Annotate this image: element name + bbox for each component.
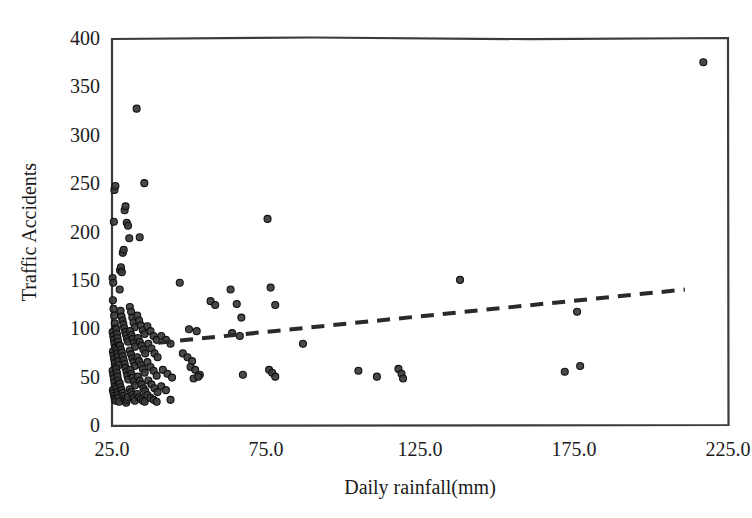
x-tick-label: 25.0 bbox=[95, 438, 130, 460]
data-point bbox=[141, 369, 148, 376]
data-point bbox=[227, 286, 234, 293]
y-tick-label: 0 bbox=[90, 414, 100, 436]
data-point bbox=[153, 398, 160, 405]
data-point bbox=[236, 332, 243, 339]
y-tick-label: 250 bbox=[70, 172, 100, 194]
data-point bbox=[122, 203, 129, 210]
data-point bbox=[111, 312, 118, 319]
data-point bbox=[457, 276, 464, 283]
data-point bbox=[126, 235, 133, 242]
x-tick-label: 125.0 bbox=[398, 438, 443, 460]
y-tick-label: 400 bbox=[70, 27, 100, 49]
data-point bbox=[400, 375, 407, 382]
data-point bbox=[110, 218, 117, 225]
data-point bbox=[162, 387, 169, 394]
data-point bbox=[154, 354, 161, 361]
x-tick-label: 225.0 bbox=[706, 438, 751, 460]
data-point bbox=[118, 269, 125, 276]
data-point bbox=[264, 215, 271, 222]
y-axis-title: Traffic Accidents bbox=[18, 163, 40, 302]
data-point bbox=[109, 297, 116, 304]
x-tick-label: 175.0 bbox=[552, 438, 597, 460]
scatter-chart-figure: 050100150200250300350400 25.075.0125.017… bbox=[0, 0, 752, 518]
data-point bbox=[355, 367, 362, 374]
data-point bbox=[577, 362, 584, 369]
data-point bbox=[233, 301, 240, 308]
data-point bbox=[700, 59, 707, 66]
data-point bbox=[299, 340, 306, 347]
data-point bbox=[238, 314, 245, 321]
data-point bbox=[116, 286, 123, 293]
data-point bbox=[195, 373, 202, 380]
data-point bbox=[125, 222, 132, 229]
data-point bbox=[136, 234, 143, 241]
y-tick-label: 300 bbox=[70, 124, 100, 146]
data-point bbox=[142, 350, 149, 357]
data-point bbox=[212, 302, 219, 309]
data-point bbox=[267, 284, 274, 291]
data-point bbox=[120, 246, 127, 253]
y-tick-label: 350 bbox=[70, 75, 100, 97]
data-point bbox=[141, 180, 148, 187]
data-point bbox=[272, 373, 279, 380]
data-point bbox=[373, 373, 380, 380]
chart-canvas: 050100150200250300350400 25.075.0125.017… bbox=[0, 0, 752, 518]
x-axis-title: Daily rainfall(mm) bbox=[344, 476, 496, 499]
data-point bbox=[153, 372, 160, 379]
data-point bbox=[169, 374, 176, 381]
data-point bbox=[176, 279, 183, 286]
data-point bbox=[561, 368, 568, 375]
data-point bbox=[110, 305, 117, 312]
y-tick-label: 100 bbox=[70, 317, 100, 339]
data-point bbox=[133, 105, 140, 112]
x-tick-label: 75.0 bbox=[249, 438, 284, 460]
y-tick-label: 50 bbox=[80, 366, 100, 388]
data-point bbox=[239, 371, 246, 378]
data-point bbox=[110, 279, 117, 286]
data-point bbox=[112, 183, 119, 190]
data-point bbox=[167, 396, 174, 403]
data-point bbox=[574, 308, 581, 315]
data-point bbox=[193, 328, 200, 335]
data-point bbox=[186, 326, 193, 333]
y-tick-label: 200 bbox=[70, 221, 100, 243]
y-tick-label: 150 bbox=[70, 269, 100, 291]
data-point bbox=[272, 302, 279, 309]
